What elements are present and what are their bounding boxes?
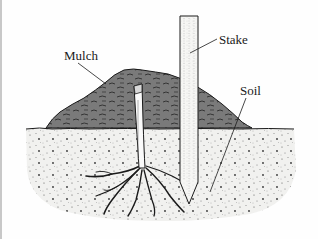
planting-illustration	[0, 0, 318, 239]
soil-region	[26, 129, 296, 221]
mulch-leader	[78, 63, 106, 84]
mulch-label: Mulch	[64, 49, 98, 62]
stake	[180, 16, 198, 204]
mulch-mound	[46, 69, 252, 128]
diagram-canvas: Mulch Stake Soil	[0, 0, 318, 239]
soil-label: Soil	[240, 84, 261, 97]
stake-label: Stake	[219, 33, 248, 46]
